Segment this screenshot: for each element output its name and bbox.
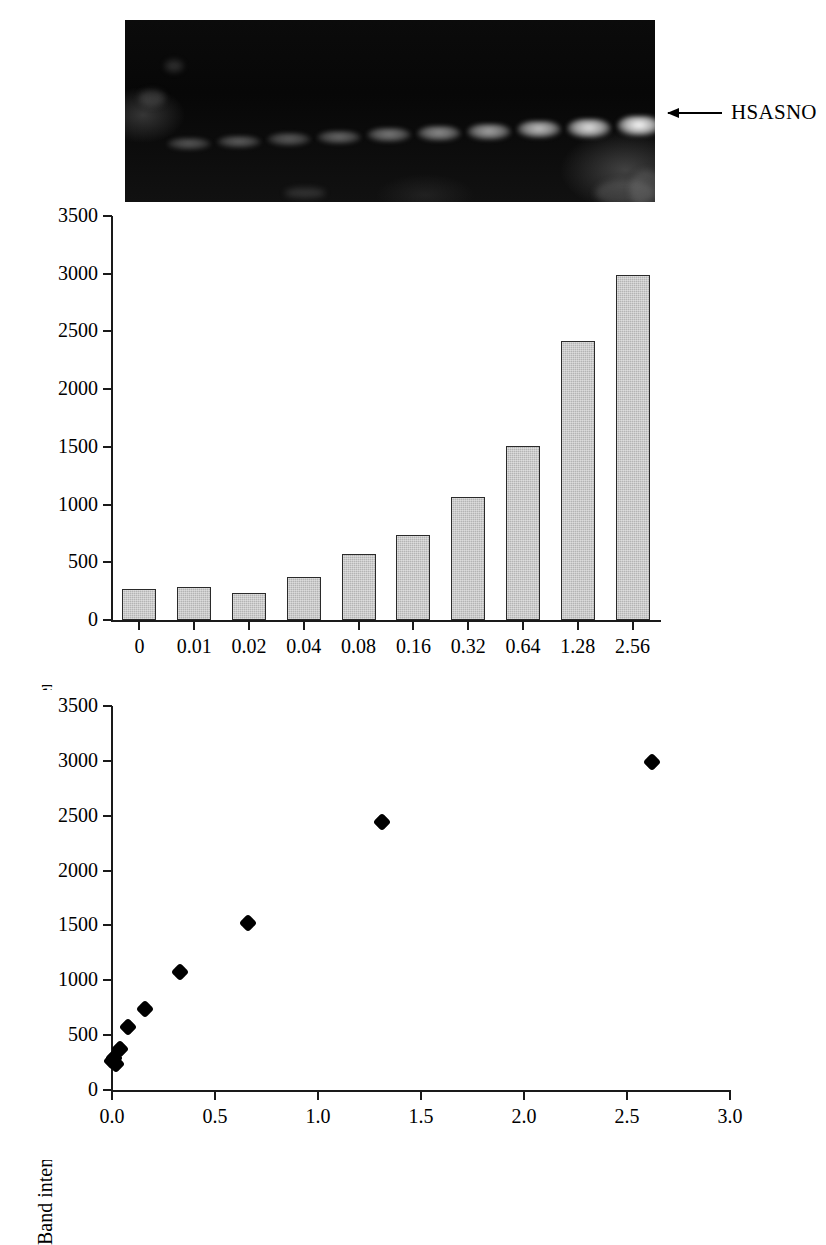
gel-band	[367, 128, 411, 142]
data-point	[172, 964, 188, 980]
bar-chart-x-tick	[193, 621, 195, 630]
gel-noise-speck	[165, 60, 183, 72]
scatter-plot-x-tick	[523, 1091, 525, 1100]
scatter-plot-x-tick-label: 0.5	[175, 1106, 255, 1126]
scatter-plot-y-tick-label: 3000	[30, 750, 98, 770]
scatter-plot-y-tick	[103, 815, 112, 817]
left-arrow-icon	[668, 112, 722, 114]
bar	[287, 577, 321, 620]
scatter-plot-y-tick-label: 1500	[30, 914, 98, 934]
gel-band	[517, 121, 561, 138]
gel-band	[417, 126, 461, 141]
bar-chart-x-tick	[138, 621, 140, 630]
gel-band	[167, 138, 211, 150]
bar-chart-y-tick-label: 3500	[30, 205, 98, 225]
scatter-plot-x-tick	[214, 1091, 216, 1100]
bar-chart-x-tick	[303, 621, 305, 630]
scatter-plot-y-tick	[103, 705, 112, 707]
bar-chart-y-tick	[103, 446, 112, 448]
scatter-plot-y-tick-label: 0	[30, 1079, 98, 1099]
gel-blot-panel: HSASNO	[0, 0, 826, 215]
gel-band	[617, 116, 655, 136]
bar-chart-x-tick	[467, 621, 469, 630]
bar-chart-y-tick	[103, 504, 112, 506]
gel-band	[267, 133, 311, 145]
bar	[561, 341, 595, 620]
bar-chart-y-tick-label: 1500	[30, 436, 98, 456]
bar	[177, 587, 211, 620]
bar-chart-y-tick	[103, 388, 112, 390]
scatter-plot-x-tick	[420, 1091, 422, 1100]
bar-chart-x-tick	[358, 621, 360, 630]
scatter-plot-y-tick	[103, 924, 112, 926]
bar-chart-y-tick	[103, 561, 112, 563]
bar-chart-y-axis	[111, 216, 113, 621]
bar	[451, 497, 485, 620]
gel-annotation: HSASNO	[668, 100, 817, 125]
gel-band	[567, 119, 611, 138]
bar-chart-y-tick-label: 0	[30, 609, 98, 629]
scatter-plot-y-tick-label: 500	[30, 1024, 98, 1044]
gel-band	[467, 124, 511, 140]
gel-band	[217, 136, 261, 149]
gel-noise-speck	[630, 170, 655, 202]
scatter-plot-panel: Band intensity (area units) pmoles SNO 0…	[0, 690, 826, 1160]
gel-image	[125, 20, 655, 202]
scatter-plot-y-tick-label: 2000	[30, 860, 98, 880]
bar-chart-y-tick	[103, 619, 112, 621]
gel-noise-speck	[139, 90, 165, 106]
scatter-plot-area: 05001000150020002500300035000.00.51.01.5…	[0, 690, 826, 1160]
bar-chart-y-tick-label: 500	[30, 551, 98, 571]
bar-chart-y-tick	[103, 215, 112, 217]
data-point	[644, 754, 660, 770]
data-point	[240, 915, 256, 931]
gel-band-label: HSASNO	[731, 100, 817, 125]
bar	[342, 554, 376, 620]
bar-chart-y-tick-label: 3000	[30, 263, 98, 283]
bar	[122, 589, 156, 620]
bar	[396, 535, 430, 620]
scatter-plot-x-tick-label: 2.0	[484, 1106, 564, 1126]
bar-chart-plot-area: 050010001500200025003000350000.010.020.0…	[0, 205, 826, 685]
scatter-plot-x-tick-label: 1.0	[278, 1106, 358, 1126]
bar-chart-panel: Band intensity (area units) pmoles SNO 0…	[0, 205, 826, 685]
bar-chart-y-tick	[103, 330, 112, 332]
bar-chart-x-tick	[248, 621, 250, 630]
bar-chart-x-tick-label: 2.56	[599, 636, 667, 656]
bar-chart-y-tick-label: 2000	[30, 378, 98, 398]
scatter-plot-y-tick-label: 3500	[30, 695, 98, 715]
scatter-plot-x-tick	[111, 1091, 113, 1100]
bar-chart-x-tick	[577, 621, 579, 630]
bar	[232, 593, 266, 620]
scatter-plot-y-tick	[103, 760, 112, 762]
scatter-plot-y-tick	[103, 1034, 112, 1036]
scatter-plot-x-tick	[729, 1091, 731, 1100]
bar-chart-y-tick-label: 2500	[30, 320, 98, 340]
bar-chart-y-tick-label: 1000	[30, 494, 98, 514]
scatter-plot-y-tick-label: 1000	[30, 969, 98, 989]
data-point	[121, 1019, 137, 1035]
scatter-plot-x-tick	[626, 1091, 628, 1100]
data-point	[374, 815, 390, 831]
gel-noise-speck	[285, 188, 325, 198]
bar	[616, 275, 650, 620]
scatter-plot-y-tick	[103, 870, 112, 872]
bar-chart-x-tick	[522, 621, 524, 630]
scatter-plot-y-tick-label: 2500	[30, 805, 98, 825]
scatter-plot-x-tick-label: 1.5	[381, 1106, 461, 1126]
scatter-plot-x-tick	[317, 1091, 319, 1100]
scatter-plot-y-tick	[103, 979, 112, 981]
scatter-plot-x-tick-label: 3.0	[690, 1106, 770, 1126]
scatter-plot-x-tick-label: 2.5	[587, 1106, 667, 1126]
scatter-plot-x-tick-label: 0.0	[72, 1106, 152, 1126]
bar	[506, 446, 540, 620]
bar-chart-y-tick	[103, 273, 112, 275]
bar-chart-x-tick	[412, 621, 414, 630]
data-point	[137, 1001, 153, 1017]
gel-band	[317, 131, 361, 144]
bar-chart-x-tick	[632, 621, 634, 630]
